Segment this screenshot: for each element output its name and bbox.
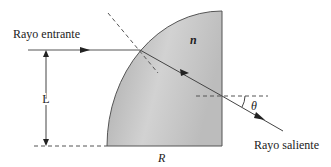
theta-angle-arc	[242, 96, 245, 107]
height-label-text: L	[42, 92, 49, 106]
refraction-diagram: Rayo entrante Rayo saliente n L L R θ	[0, 0, 331, 167]
incoming-ray-arrow-icon	[80, 47, 90, 53]
outgoing-ray-arrow-icon	[254, 112, 265, 120]
angle-label: θ	[251, 99, 257, 113]
quarter-circle-lens	[107, 11, 222, 146]
radius-label: R	[157, 151, 166, 165]
height-arrow-bottom-icon	[43, 139, 49, 146]
refractive-index-label: n	[190, 33, 197, 47]
incoming-ray-label: Rayo entrante	[13, 27, 80, 41]
outgoing-ray-label: Rayo saliente	[254, 138, 319, 152]
height-arrow-top-icon	[43, 50, 49, 57]
